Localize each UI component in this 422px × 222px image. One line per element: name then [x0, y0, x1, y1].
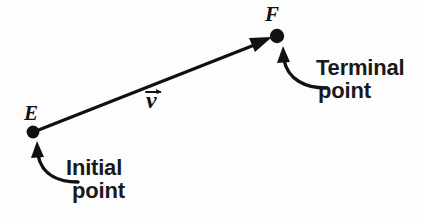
initial-point-callout-arrowhead	[31, 141, 44, 158]
vector-name-text: v	[146, 87, 157, 113]
terminal-point-callout-line-2: point	[316, 79, 404, 102]
vector-diagram: E F v Initial point Terminal point	[0, 0, 422, 222]
initial-point-label: E	[24, 103, 38, 124]
terminal-point-label: F	[265, 4, 279, 25]
initial-point-callout-line-1: Initial	[66, 156, 125, 179]
initial-point-callout-line-2: point	[66, 179, 125, 202]
initial-point-callout: Initial point	[66, 156, 125, 202]
vector-diagram-canvas	[0, 0, 422, 222]
vector-name-label: v	[146, 86, 157, 112]
terminal-point-callout-line-1: Terminal	[316, 56, 404, 79]
vector-glyph-wrapper: v	[146, 86, 157, 112]
terminal-point-dot	[270, 29, 284, 43]
vector-arrowhead	[249, 37, 272, 52]
terminal-point-callout-arrowhead	[277, 46, 290, 63]
initial-point-dot	[27, 126, 40, 139]
terminal-point-callout: Terminal point	[316, 56, 404, 102]
